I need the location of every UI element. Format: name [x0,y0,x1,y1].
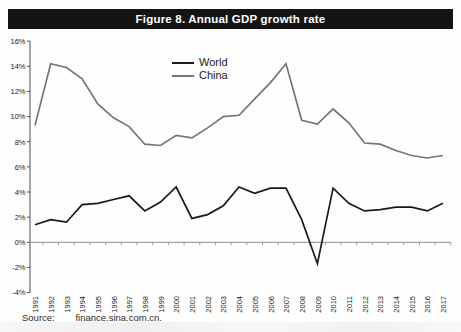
y-axis-label: 6% [15,163,26,172]
x-axis-label: 2016 [423,296,432,313]
x-axis-label: 1993 [63,296,72,313]
x-axis-label: 2002 [204,296,213,313]
x-axis-label: 1991 [31,296,40,313]
world-series-line [35,187,443,264]
x-axis-label: 2011 [345,296,354,312]
chart-legend: World China [172,56,228,82]
x-axis-label: 2004 [235,296,244,313]
x-axis-label: 2013 [376,296,385,313]
china-line-swatch-icon [172,75,194,77]
x-axis-label: 2000 [172,296,181,313]
x-axis-label: 2005 [251,296,260,313]
y-axis-label: -2% [12,263,26,272]
x-axis-label: 2001 [188,296,197,313]
x-axis-label: 2017 [439,296,448,313]
x-axis-label: 1999 [157,296,166,313]
x-axis-label: 2015 [408,296,417,313]
x-axis-label: 1997 [125,296,134,313]
y-axis-label: 8% [15,138,26,147]
x-axis-label: 2006 [267,296,276,313]
legend-label-china: China [199,69,228,82]
y-axis-label: -4% [12,288,26,297]
y-axis-label: 4% [15,188,26,197]
x-axis-label: 2007 [282,296,291,313]
gdp-growth-line-chart: -4%-2%0%2%4%6%8%10%12%14%16%199119921993… [0,0,461,332]
legend-item-china: China [172,69,228,82]
figure-container: Figure 8. Annual GDP growth rate -4%-2%0… [0,0,461,332]
y-axis-label: 16% [10,37,25,46]
x-axis-label: 2009 [314,296,323,313]
x-axis-label: 2014 [392,296,401,313]
y-axis-label: 0% [15,238,26,247]
legend-item-world: World [172,56,228,69]
world-line-swatch-icon [172,62,194,64]
x-axis-label: 2010 [329,296,338,313]
x-axis-label: 2012 [361,296,370,313]
x-axis-label: 1994 [78,296,87,313]
x-axis-label: 1992 [47,296,56,313]
x-axis-label: 1995 [94,296,103,313]
y-axis-label: 10% [10,112,25,121]
y-axis-label: 12% [10,87,25,96]
x-axis-label: 2003 [219,296,228,313]
china-series-line [35,64,443,158]
x-axis-label: 1998 [141,296,150,313]
scan-artifact-band [0,322,461,332]
x-axis-label: 1996 [110,296,119,313]
y-axis-label: 2% [15,213,26,222]
x-axis-label: 2008 [298,296,307,313]
y-axis-label: 14% [10,62,25,71]
legend-label-world: World [199,56,228,69]
